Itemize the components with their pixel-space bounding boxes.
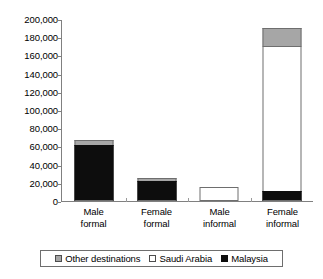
bar-group (63, 20, 313, 201)
bar-segment[interactable] (75, 145, 114, 201)
stacked-bar[interactable] (262, 28, 301, 201)
legend-swatch-icon (55, 255, 62, 262)
plot-area (61, 20, 313, 202)
legend-item[interactable]: Other destinations (55, 253, 140, 264)
y-axis-labels: 200,000180,000160,000140,000120,000100,0… (0, 0, 58, 210)
x-axis-label-line2: formal (62, 218, 125, 230)
bar-segment[interactable] (137, 181, 176, 201)
bar-slot (63, 20, 126, 201)
y-axis-tick-label: 40,000 (2, 161, 58, 171)
x-axis-tick-mark (188, 198, 189, 202)
x-axis-label-line2: informal (251, 218, 314, 230)
y-axis-tick-label: 160,000 (2, 51, 58, 61)
legend-item[interactable]: Malaysia (221, 253, 268, 264)
y-axis-tick-label: 200,000 (2, 15, 58, 25)
x-axis-label-line2: formal (125, 218, 188, 230)
legend-label: Malaysia (231, 253, 268, 264)
bar-segment[interactable] (262, 28, 301, 46)
y-axis-tick-label: 0 (2, 197, 58, 207)
y-axis-tick-mark (57, 202, 61, 203)
y-axis-tick-label: 140,000 (2, 70, 58, 80)
x-axis-category-label: Femaleformal (125, 206, 188, 242)
bar-slot (126, 20, 189, 201)
x-axis-label-line2: informal (188, 218, 251, 230)
bar-segment[interactable] (262, 191, 301, 201)
legend-item[interactable]: Saudi Arabia (149, 253, 212, 264)
legend-swatch-icon (221, 255, 228, 262)
x-axis-label-line1: Male (209, 206, 229, 217)
y-axis-tick-label: 180,000 (2, 33, 58, 43)
legend-label: Other destinations (65, 253, 140, 264)
stacked-bar[interactable] (75, 140, 114, 201)
bar-segment[interactable] (200, 187, 239, 201)
x-axis-label-line1: Female (141, 206, 172, 217)
y-axis-tick-label: 60,000 (2, 142, 58, 152)
x-axis-label-line1: Female (267, 206, 298, 217)
legend-swatch-icon (149, 255, 156, 262)
x-axis-category-label: Maleformal (62, 206, 125, 242)
stacked-bar[interactable] (200, 187, 239, 201)
bar-slot (188, 20, 251, 201)
y-axis-tick-label: 120,000 (2, 88, 58, 98)
x-axis-tick-mark (126, 198, 127, 202)
x-axis-labels: MaleformalFemaleformalMaleinformalFemale… (62, 206, 314, 242)
stacked-bar[interactable] (137, 178, 176, 201)
x-axis-category-label: Femaleinformal (251, 206, 314, 242)
stacked-bar-chart: 200,000180,000160,000140,000120,000100,0… (0, 0, 323, 279)
x-axis-tick-mark (251, 198, 252, 202)
y-axis-tick-label: 80,000 (2, 124, 58, 134)
y-axis-tick-label: 100,000 (2, 106, 58, 116)
x-axis-label-line1: Male (83, 206, 103, 217)
chart-legend: Other destinationsSaudi ArabiaMalaysia (40, 250, 283, 267)
legend-label: Saudi Arabia (159, 253, 212, 264)
bar-segment[interactable] (262, 46, 301, 191)
y-axis-tick-label: 20,000 (2, 179, 58, 189)
bar-slot (251, 20, 314, 201)
x-axis-category-label: Maleinformal (188, 206, 251, 242)
